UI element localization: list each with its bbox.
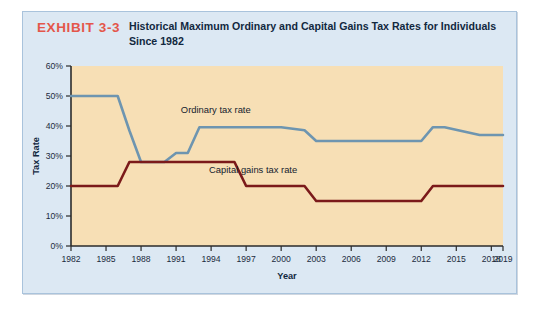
chart-area: 0%10%20%30%40%50%60% 1982198519881991199… xyxy=(23,56,518,293)
x-tick-label: 2015 xyxy=(447,254,466,264)
x-tick-label: 2009 xyxy=(377,254,396,264)
exhibit-card: EXHIBIT 3-3 Historical Maximum Ordinary … xyxy=(22,11,517,294)
plot-background xyxy=(71,66,503,246)
exhibit-number-label: EXHIBIT 3-3 xyxy=(37,20,120,35)
x-axis-tick-labels: 1982198519881991199419972000200320062009… xyxy=(61,254,512,264)
x-tick-label: 2012 xyxy=(412,254,431,264)
x-tick-label: 2000 xyxy=(272,254,291,264)
y-tick-label: 30% xyxy=(46,151,64,161)
exhibit-title: Historical Maximum Ordinary and Capital … xyxy=(129,19,497,48)
exhibit-header: EXHIBIT 3-3 Historical Maximum Ordinary … xyxy=(23,12,516,58)
tax-rate-line-chart: 0%10%20%30%40%50%60% 1982198519881991199… xyxy=(23,56,518,293)
y-axis-title: Tax Rate xyxy=(31,137,41,175)
x-tick-label: 1994 xyxy=(202,254,221,264)
y-tick-label: 0% xyxy=(51,241,64,251)
y-tick-label: 10% xyxy=(46,211,64,221)
x-tick-label: 1988 xyxy=(131,254,150,264)
x-axis-title: Year xyxy=(277,271,297,281)
y-tick-label: 60% xyxy=(46,61,64,71)
x-tick-label: 2019 xyxy=(493,254,512,264)
series-label: Capital gains tax rate xyxy=(209,164,297,175)
x-tick-label: 1997 xyxy=(237,254,256,264)
y-axis-tick-labels: 0%10%20%30%40%50%60% xyxy=(46,61,64,251)
y-tick-label: 20% xyxy=(46,181,64,191)
x-tick-label: 2006 xyxy=(342,254,361,264)
series-label: Ordinary tax rate xyxy=(181,104,251,115)
x-tick-label: 1985 xyxy=(96,254,115,264)
x-tick-label: 2003 xyxy=(307,254,326,264)
y-tick-label: 40% xyxy=(46,121,64,131)
x-tick-label: 1982 xyxy=(61,254,80,264)
x-tick-label: 1991 xyxy=(167,254,186,264)
y-tick-label: 50% xyxy=(46,91,64,101)
